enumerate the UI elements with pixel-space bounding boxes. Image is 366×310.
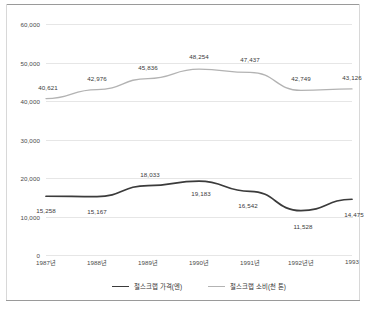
legend-item[interactable]: 철스크랩 가격(엔)	[112, 282, 182, 291]
y-tick-label: 60,000	[0, 21, 40, 28]
x-tick-label: 1992년년	[288, 258, 314, 267]
x-tick-label: 1993	[345, 258, 359, 265]
legend-label: 철스크랩 가격(엔)	[134, 282, 182, 291]
y-tick-label: 10,000	[0, 213, 40, 220]
y-tick-label: 40,000	[0, 98, 40, 105]
data-point-label: 48,254	[189, 53, 209, 60]
chart-legend: 철스크랩 가격(엔)철스크랩 소비(천 톤)	[46, 278, 352, 294]
y-tick-label: 50,000	[0, 59, 40, 66]
x-tick-label: 1988년	[87, 258, 107, 267]
x-tick-label: 1990년	[189, 258, 209, 267]
chart-page: 15,25815,16718,03319,18316,54211,52814,4…	[0, 0, 366, 310]
data-point-label: 43,126	[342, 73, 362, 80]
data-point-label: 42,749	[291, 75, 311, 82]
data-point-label: 45,836	[138, 63, 158, 70]
y-tick-label: 30,000	[0, 136, 40, 143]
legend-swatch-icon	[112, 286, 129, 287]
data-point-label: 15,167	[87, 207, 107, 214]
data-point-label: 47,437	[240, 56, 260, 63]
data-point-label: 11,528	[293, 222, 312, 229]
x-tick-label: 1991년	[240, 258, 260, 267]
plot-area: 15,25815,16718,03319,18316,54211,52814,4…	[46, 24, 352, 255]
data-point-label: 18,033	[140, 170, 160, 177]
data-point-label: 19,183	[191, 190, 211, 197]
legend-label: 철스크랩 소비(천 톤)	[230, 282, 286, 291]
x-tick-label: 1989년	[138, 258, 158, 267]
frame-bottom-border	[6, 300, 360, 301]
data-point-label: 42,976	[87, 74, 107, 81]
data-point-label: 40,621	[38, 83, 58, 90]
legend-swatch-icon	[208, 286, 225, 287]
frame-top-border	[6, 4, 360, 5]
y-tick-label: 0	[0, 252, 40, 259]
data-point-label: 14,475	[344, 211, 364, 218]
x-tick-label: 1987년	[36, 258, 56, 267]
data-point-label: 16,542	[238, 202, 258, 209]
gridline	[46, 255, 352, 256]
y-tick-label: 20,000	[0, 175, 40, 182]
frame-right-border	[359, 4, 360, 301]
legend-item[interactable]: 철스크랩 소비(천 톤)	[208, 282, 286, 291]
